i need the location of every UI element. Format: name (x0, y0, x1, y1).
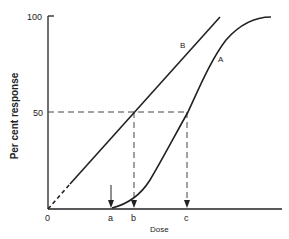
arrow-b-icon (131, 200, 137, 208)
curve-b (70, 17, 220, 184)
x-tick-c: c (184, 213, 189, 223)
y-tick-50: 50 (33, 108, 43, 118)
x-tick-origin: 0 (45, 213, 50, 223)
x-axis-title: Dose (150, 225, 169, 234)
x-tick-a: a (108, 213, 113, 223)
curve-a (112, 17, 271, 208)
x-tick-b: b (131, 213, 136, 223)
arrow-c-icon (184, 200, 190, 208)
curve-b-label: B (180, 41, 185, 50)
arrow-a-icon (108, 200, 114, 208)
y-axis-title: Per cent response (9, 72, 20, 159)
y-tick-100: 100 (27, 12, 42, 22)
curve-b-dashed (48, 184, 70, 209)
dose-response-chart: B A 100 50 0 a b c Dose Per cent respons… (0, 0, 289, 239)
curve-a-label: A (218, 55, 224, 64)
